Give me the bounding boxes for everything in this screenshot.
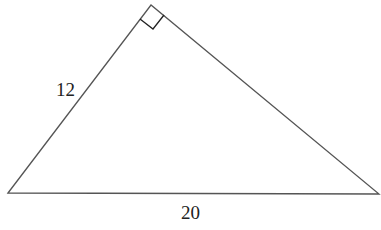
- triangle-figure: [0, 0, 381, 230]
- right-angle-marker: [140, 15, 164, 29]
- side-label-hypotenuse: 20: [181, 203, 200, 222]
- side-label-left: 12: [56, 80, 75, 99]
- triangle-diagram: 12 20: [0, 0, 381, 230]
